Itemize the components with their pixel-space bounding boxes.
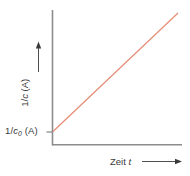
x-axis-variable: t [128,156,131,167]
kinetics-plot-figure: 1/c0 (A) 1/c (A) Zeit t [0,0,190,176]
y-intercept-label: 1/c0 (A) [5,126,38,137]
y-axis-prefix: 1/ [19,99,30,107]
intercept-prefix: 1/ [5,125,13,136]
intercept-unit: (A) [25,125,38,136]
y-axis-label: 1/c (A) [20,63,30,123]
data-line [53,13,178,132]
x-axis-word: Zeit [110,156,126,167]
y-axis-unit: (A) [19,79,30,92]
y-axis-variable: c [19,94,30,99]
x-axis-label: Zeit t [110,157,131,167]
intercept-subscript: 0 [18,130,22,137]
x-label-arrow-head [175,159,182,164]
y-label-arrow-head [36,42,41,49]
